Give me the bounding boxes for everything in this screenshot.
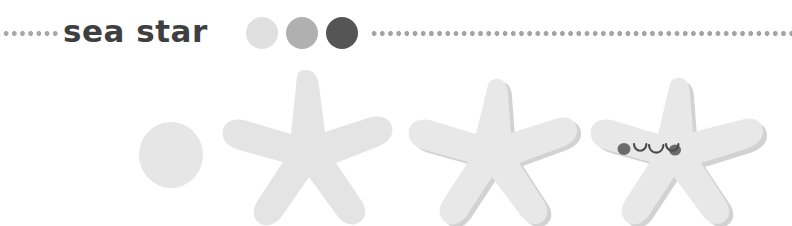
step-rough-star	[212, 66, 402, 226]
rough-star-shape	[223, 70, 393, 226]
dotted-rule-right-icon	[370, 31, 792, 36]
step-circle	[130, 66, 214, 226]
step-sequence	[0, 66, 792, 226]
color-swatch-light[interactable]	[246, 17, 278, 49]
color-palette	[246, 17, 366, 51]
color-swatch-medium[interactable]	[286, 17, 318, 49]
step-refined-star	[396, 66, 586, 226]
header: sea star	[0, 0, 792, 66]
circle-shape	[139, 122, 203, 188]
color-swatch-dark[interactable]	[326, 17, 358, 49]
step-finished-star	[578, 66, 778, 226]
blush-left-icon	[618, 143, 631, 155]
dotted-rule-left-icon	[2, 31, 60, 36]
tutorial-sheet: sea star	[0, 0, 792, 226]
page-title: sea star	[63, 9, 208, 53]
